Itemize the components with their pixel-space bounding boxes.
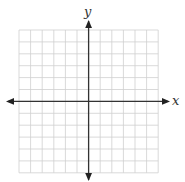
y-axis-up-arrow-icon [85,20,92,28]
x-axis-left-arrow-icon [6,98,14,105]
coordinate-plane: y x [0,0,185,182]
y-axis-label: y [83,4,92,19]
x-axis-label: x [172,93,180,108]
y-axis-down-arrow-icon [85,173,92,181]
y-axis [85,20,92,181]
x-axis-right-arrow-icon [162,98,170,105]
